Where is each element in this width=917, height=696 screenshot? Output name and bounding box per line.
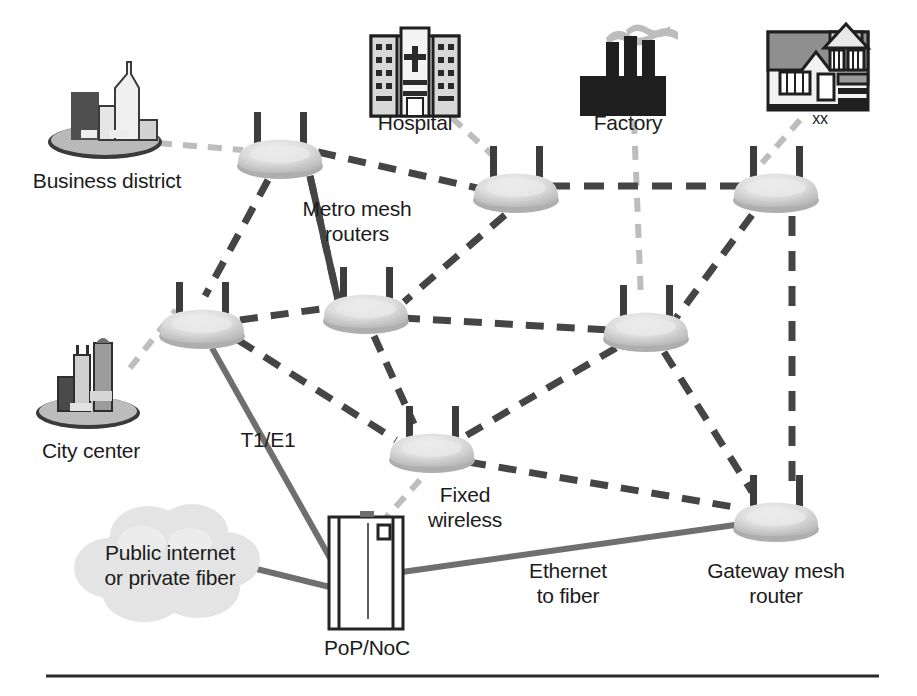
label-city-center: City center (6, 438, 176, 463)
label-hospital: Hospital (340, 110, 490, 135)
city-center-icon[interactable] (36, 338, 140, 429)
hospital-icon[interactable] (371, 28, 459, 116)
gateway-mesh-router[interactable] (733, 475, 819, 542)
label-ethernet-to-fiber: Ethernet to fiber (498, 558, 638, 608)
label-t1-e1: T1/E1 (218, 427, 318, 452)
factory-icon[interactable] (580, 24, 678, 116)
label-business-district: Business district (12, 168, 202, 193)
network-diagram: Business district Metro mesh routers Hos… (0, 0, 917, 696)
house-icon[interactable] (768, 24, 868, 110)
label-factory: Factory (558, 110, 698, 135)
fixed-wireless-router[interactable] (389, 406, 475, 473)
metro-mesh-router-3[interactable] (733, 146, 819, 213)
metro-mesh-router-2[interactable] (473, 146, 559, 213)
label-pop-noc: PoP/NoC (296, 635, 438, 660)
metro-mesh-router-1[interactable] (237, 112, 323, 179)
metro-mesh-router-5[interactable] (323, 267, 409, 334)
metro-mesh-router-4[interactable] (159, 282, 245, 349)
label-public-internet: Public internet or private fiber (48, 540, 292, 590)
label-house-tag: xx (790, 110, 850, 128)
label-fixed-wireless: Fixed wireless (405, 482, 525, 532)
label-metro-mesh-routers: Metro mesh routers (272, 196, 442, 246)
label-gateway-mesh-router: Gateway mesh router (676, 558, 876, 608)
business-district-icon[interactable] (48, 62, 162, 159)
metro-mesh-router-6[interactable] (603, 285, 689, 352)
pop-noc-icon[interactable] (329, 511, 403, 629)
